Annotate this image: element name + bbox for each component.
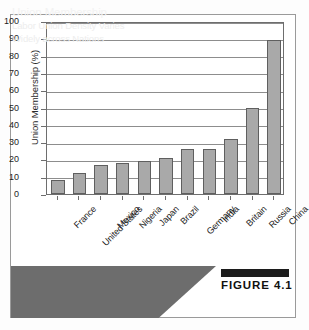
caption-subtitle-line-1: Labor Union Density Varies <box>12 20 192 33</box>
bar <box>246 108 259 195</box>
bar <box>94 165 107 194</box>
bar <box>159 158 172 194</box>
bar <box>51 180 64 194</box>
x-category-label: Britain <box>244 204 268 228</box>
bar <box>203 149 216 194</box>
y-tick-label: 0 <box>0 190 19 199</box>
x-category-label: Brazil <box>178 204 200 226</box>
gridline <box>47 57 283 58</box>
x-tick-mark <box>273 196 274 200</box>
bar <box>267 40 280 194</box>
y-axis-title: Union Membership (%) <box>29 28 40 168</box>
x-category-label: India <box>221 204 241 224</box>
y-tick-label: 20 <box>0 155 19 164</box>
x-category-label: France <box>72 204 98 230</box>
figure-tag: FIGURE 4.1 <box>221 269 291 291</box>
caption-text-block: Union Membership Labor Union Density Var… <box>12 5 192 45</box>
x-tick-mark <box>57 196 58 200</box>
x-tick-mark <box>230 196 231 200</box>
bar <box>73 173 86 194</box>
x-tick-mark <box>78 196 79 200</box>
y-tick-label: 80 <box>0 52 19 61</box>
x-tick-mark <box>208 196 209 200</box>
bar <box>224 139 237 194</box>
bar <box>181 149 194 194</box>
bar <box>116 163 129 194</box>
y-tick-label: 30 <box>0 138 19 147</box>
y-tick-label: 10 <box>0 173 19 182</box>
x-tick-mark <box>100 196 101 200</box>
y-tick-mark <box>41 195 46 196</box>
gridline <box>47 74 283 75</box>
y-tick-label: 60 <box>0 86 19 95</box>
gridline <box>47 92 283 93</box>
bar-chart: Union Membership (%) 0102030405060708090… <box>10 14 296 264</box>
figure-tag-label: FIGURE 4.1 <box>221 279 291 291</box>
x-tick-mark <box>165 196 166 200</box>
bar <box>138 161 151 194</box>
figure-root: Union Membership (%) 0102030405060708090… <box>0 0 309 330</box>
x-tick-mark <box>143 196 144 200</box>
caption-subtitle-line-2: Widely across Nations <box>12 33 192 46</box>
x-tick-mark <box>122 196 123 200</box>
x-tick-mark <box>187 196 188 200</box>
figure-tag-rule <box>221 269 289 277</box>
plot-area <box>46 22 284 195</box>
y-tick-label: 50 <box>0 104 19 113</box>
y-tick-label: 70 <box>0 69 19 78</box>
caption-title: Union Membership <box>12 5 192 20</box>
y-tick-label: 40 <box>0 121 19 130</box>
x-tick-mark <box>252 196 253 200</box>
